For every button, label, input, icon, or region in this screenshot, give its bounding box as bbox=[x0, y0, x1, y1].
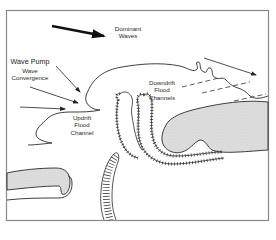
label-flood: Flood bbox=[66, 121, 98, 128]
label-waves: Waves bbox=[108, 32, 148, 39]
label-wave-convergence: Wave Convergence bbox=[8, 67, 52, 82]
updrift-arrow-icon bbox=[20, 107, 65, 109]
mainland-lower-left bbox=[7, 168, 70, 194]
barrier-island-right bbox=[162, 101, 268, 153]
channel-tip-loop-hatch bbox=[117, 94, 138, 158]
label-downdrift: Downdrift bbox=[144, 79, 180, 86]
wave-convergence-arrow-icon bbox=[30, 87, 78, 103]
label-wave: Wave bbox=[8, 67, 52, 74]
channel-tip-loop bbox=[117, 94, 138, 158]
label-channel: Channel bbox=[66, 129, 98, 136]
label-updrift-flood-channel: Updrift Flood Channel bbox=[66, 114, 98, 136]
ebb-channel-lower-hatch bbox=[106, 156, 116, 220]
label-wave-pump: Wave Pump bbox=[8, 58, 52, 66]
label-dominant: Dominant bbox=[108, 25, 148, 32]
label-convergence: Convergence bbox=[8, 74, 52, 81]
updrift-spit-tip bbox=[72, 96, 100, 112]
dominant-waves-arrow-icon bbox=[52, 26, 104, 36]
label-channels: Channels bbox=[144, 94, 180, 101]
label-flood-2: Flood bbox=[144, 86, 180, 93]
label-updrift: Updrift bbox=[66, 114, 98, 121]
label-downdrift-flood-channels: Downdrift Flood Channels bbox=[144, 79, 180, 101]
label-dominant-waves: Dominant Waves bbox=[108, 25, 148, 40]
wave-pump-arrow-icon bbox=[56, 66, 80, 92]
